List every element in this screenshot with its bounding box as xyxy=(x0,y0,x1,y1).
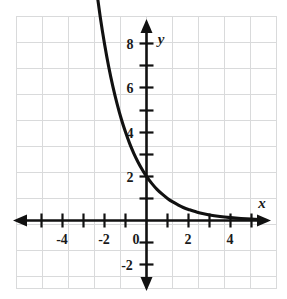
graph-figure-container: x y -4 -2 0 2 4 xyxy=(0,0,287,299)
x-tick-label: 4 xyxy=(227,232,234,247)
y-tick-label: 2 xyxy=(127,170,134,185)
y-tick-label: -2 xyxy=(121,258,133,273)
coordinate-plane-graph: x y -4 -2 0 2 4 xyxy=(0,0,287,299)
x-tick-label: -4 xyxy=(56,232,68,247)
x-tick-label: -2 xyxy=(98,232,110,247)
x-tick-label-origin: 0 xyxy=(133,232,140,247)
y-tick-label: 8 xyxy=(127,37,134,52)
x-tick-label: 2 xyxy=(185,232,192,247)
x-axis-label: x xyxy=(257,195,266,211)
y-axis-label: y xyxy=(156,31,165,47)
figure-background xyxy=(0,0,287,299)
y-tick-label: 6 xyxy=(127,81,134,96)
